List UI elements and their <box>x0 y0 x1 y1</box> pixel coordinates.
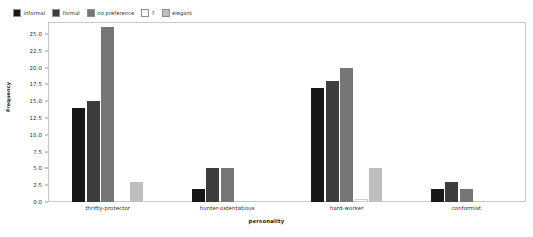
bar-chart-figure: informalformalno preference?elegant Freq… <box>0 0 533 237</box>
x-axis-tick-label: hunter-ostentatious <box>200 205 255 211</box>
x-axis-tick-label: conformist <box>451 205 481 211</box>
legend-swatch-icon <box>162 9 170 17</box>
chart-legend: informalformalno preference?elegant <box>13 7 192 18</box>
legend-item[interactable]: formal <box>52 9 80 17</box>
y-axis-tick-label: 5.0 <box>33 165 42 171</box>
y-axis-tick-label: 15.0 <box>30 98 42 104</box>
y-axis-tick-label: 7.5 <box>33 149 42 155</box>
legend-label: ? <box>152 10 155 16</box>
y-axis-tick-label: 2.5 <box>33 182 42 188</box>
legend-label: informal <box>24 10 46 16</box>
y-axis-tick-label: 10.0 <box>30 132 42 138</box>
plot-area <box>48 22 526 202</box>
x-axis-tick-label: hard-worker <box>330 205 364 211</box>
x-axis-ticks: thrifty-protectorhunter-ostentatioushard… <box>48 205 526 217</box>
legend-label: formal <box>63 10 80 16</box>
legend-item[interactable]: informal <box>13 9 45 17</box>
legend-swatch-icon <box>52 9 60 17</box>
legend-swatch-icon <box>141 9 149 17</box>
y-axis-tick-label: 25.0 <box>30 31 42 37</box>
legend-label: elegant <box>172 10 192 16</box>
y-axis-tick-label: 17.5 <box>30 81 42 87</box>
y-axis-tick-label: 12.5 <box>30 115 42 121</box>
y-axis-tick-label: 22.5 <box>30 48 42 54</box>
legend-item[interactable]: no preference <box>87 9 134 17</box>
y-axis-tick-label: 20.0 <box>30 65 42 71</box>
legend-item[interactable]: elegant <box>162 9 192 17</box>
legend-swatch-icon <box>87 9 95 17</box>
y-axis-tick-label: 0.0 <box>33 199 42 205</box>
legend-swatch-icon <box>13 9 21 17</box>
legend-item[interactable]: ? <box>141 9 154 17</box>
x-axis-title: personality <box>0 218 533 224</box>
legend-label: no preference <box>97 10 134 16</box>
x-axis-tick-label: thrifty-protector <box>85 205 130 211</box>
y-axis-ticks: 0.02.55.07.510.012.515.017.520.022.525.0 <box>0 22 48 202</box>
